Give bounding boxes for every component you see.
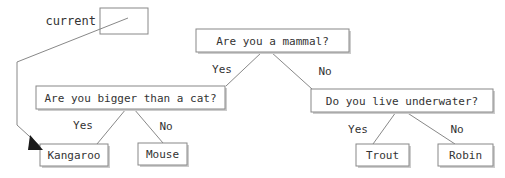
edge-label-underwater-no: No <box>450 123 463 136</box>
tree-canvas: YesNoYesNoYesNo Are you a mammal?Are you… <box>0 0 505 178</box>
node-label-robin: Robin <box>449 149 482 162</box>
node-label-trout: Trout <box>366 149 399 162</box>
tree-node-underwater[interactable]: Do you live underwater? <box>311 89 495 114</box>
tree-edge-bigger-to-kangaroo <box>97 109 126 144</box>
tree-node-kangaroo[interactable]: Kangaroo <box>40 144 110 168</box>
edge-label-bigger-yes: Yes <box>73 119 93 132</box>
node-label-underwater: Do you live underwater? <box>326 95 478 108</box>
node-label-mouse: Mouse <box>146 148 179 161</box>
edge-label-bigger-no: No <box>159 120 172 133</box>
tree-node-mouse[interactable]: Mouse <box>138 143 189 167</box>
edge-label-underwater-yes: Yes <box>348 123 368 136</box>
node-label-bigger: Are you bigger than a cat? <box>44 92 216 105</box>
current-pointer-arrowhead <box>28 135 43 150</box>
nodes-layer: Are you a mammal?Are you bigger than a c… <box>36 29 495 168</box>
tree-edge-underwater-to-trout <box>373 112 396 144</box>
node-label-kangaroo: Kangaroo <box>48 149 101 162</box>
edge-label-root-no: No <box>318 65 331 78</box>
current-variable-label: current <box>45 14 96 28</box>
decision-tree-diagram: YesNoYesNoYesNo Are you a mammal?Are you… <box>0 0 505 178</box>
tree-edge-root-to-underwater <box>271 52 312 89</box>
tree-node-robin[interactable]: Robin <box>438 144 495 168</box>
node-label-root: Are you a mammal? <box>216 35 329 48</box>
tree-node-bigger[interactable]: Are you bigger than a cat? <box>36 86 227 111</box>
tree-node-root[interactable]: Are you a mammal? <box>196 29 351 54</box>
edge-label-root-yes: Yes <box>212 63 232 76</box>
tree-edge-underwater-to-robin <box>406 112 455 144</box>
current-variable-box[interactable] <box>100 8 148 34</box>
tree-node-trout[interactable]: Trout <box>356 144 411 168</box>
